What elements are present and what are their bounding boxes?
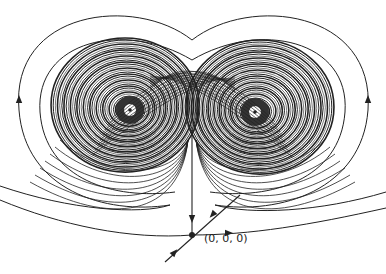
stable-manifold-arrow-icon: [189, 215, 195, 223]
origin-point: [189, 232, 195, 238]
lorenz-attractor-diagram: (0, 0, 0): [0, 0, 386, 274]
left-lobe: [51, 38, 199, 172]
right-outer-arrow-icon: [365, 95, 371, 103]
right-lobe: [186, 40, 334, 174]
unstable-manifold-arrow-upper-icon: [207, 210, 217, 220]
left-outer-arrow-icon: [16, 95, 22, 103]
attractor-plot: [0, 0, 386, 274]
origin-label: (0, 0, 0): [204, 232, 248, 245]
